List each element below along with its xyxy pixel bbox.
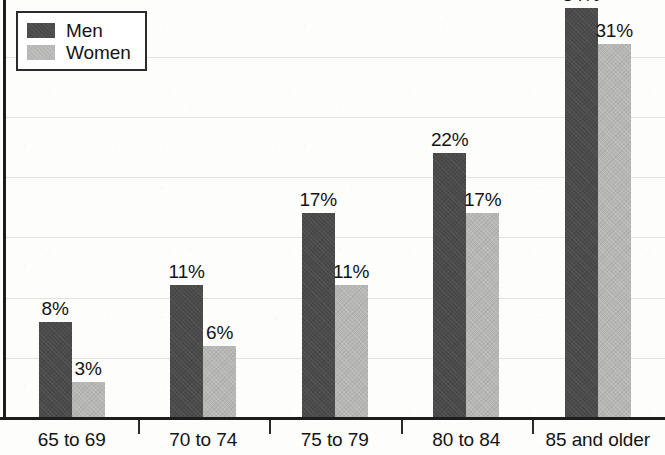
legend-label-men: Men <box>66 21 103 40</box>
x-axis-label-75-to-79: 75 to 79 <box>269 429 401 451</box>
bar-value-label: 17% <box>464 190 502 209</box>
bar-value-label: 34% <box>562 0 600 4</box>
x-axis-label-80-to-84: 80 to 84 <box>401 429 533 451</box>
x-axis-label-70-to-74: 70 to 74 <box>138 429 270 451</box>
legend-swatch-men-icon <box>27 23 55 38</box>
bar-value-label: 8% <box>42 299 69 318</box>
y-axis-line <box>3 0 6 420</box>
bar-chart: 65 to 6970 to 7475 to 7980 to 8485 and o… <box>0 0 665 455</box>
bar-women-85-and-older <box>598 44 631 418</box>
bar-value-label: 22% <box>431 130 469 149</box>
legend-label-women: Women <box>66 43 131 62</box>
legend-item-men: Men <box>27 19 131 41</box>
x-axis-line <box>0 417 665 420</box>
bar-men-70-to-74 <box>170 285 203 418</box>
bar-men-85-and-older <box>565 8 598 418</box>
x-axis-label-85-and-older: 85 and older <box>532 429 664 451</box>
bar-women-70-to-74 <box>203 346 236 418</box>
bar-value-label: 31% <box>595 21 633 40</box>
legend-item-women: Women <box>27 41 131 63</box>
bar-men-75-to-79 <box>302 213 335 418</box>
bar-value-label: 17% <box>299 190 337 209</box>
chart-legend: Men Women <box>16 11 147 71</box>
x-axis-label-65-to-69: 65 to 69 <box>6 429 138 451</box>
bar-value-label: 3% <box>75 359 102 378</box>
bar-women-80-to-84 <box>466 213 499 418</box>
bar-value-label: 11% <box>169 262 205 281</box>
legend-swatch-women-icon <box>27 45 55 60</box>
bar-men-80-to-84 <box>433 153 466 418</box>
bar-men-65-to-69 <box>39 322 72 418</box>
bar-value-label: 6% <box>206 323 233 342</box>
bar-women-65-to-69 <box>72 382 105 418</box>
bar-value-label: 11% <box>333 262 369 281</box>
bar-women-75-to-79 <box>335 285 368 418</box>
